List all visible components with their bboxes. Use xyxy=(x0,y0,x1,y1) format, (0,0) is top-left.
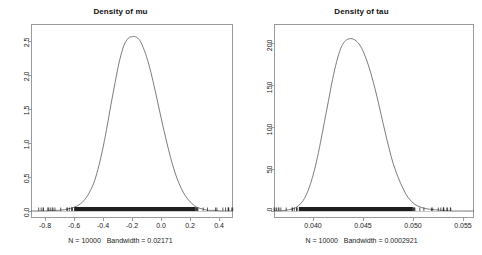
density-curve-tau xyxy=(274,24,474,218)
xtick-label-tau-3: 0.055 xyxy=(454,222,472,229)
xtick-tau-0 xyxy=(313,218,314,221)
density-plots-figure: Density of mu 0.0 0.5 1.0 1.5 2.0 2.5 xyxy=(0,0,482,255)
plot-region-tau xyxy=(274,24,474,218)
xtick-mu-1 xyxy=(74,218,75,221)
xtick-label-mu-0: -0.8 xyxy=(39,222,51,229)
panel-density-of-tau: Density of tau 0 50 100 150 200 0.040 0.… xyxy=(241,0,482,255)
xtick-mu-4 xyxy=(161,218,162,221)
xtick-label-mu-6: 0.4 xyxy=(214,222,224,229)
plot-subtitle-mu: N = 10000 Bandwidth = 0.02171 xyxy=(0,237,241,244)
plot-title-tau: Density of tau xyxy=(241,7,482,16)
xtick-label-mu-4: 0.0 xyxy=(156,222,166,229)
plot-region-mu xyxy=(31,24,233,218)
xtick-mu-2 xyxy=(103,218,104,221)
xtick-label-mu-3: -0.2 xyxy=(126,222,138,229)
xtick-label-mu-5: 0.2 xyxy=(185,222,195,229)
xtick-mu-6 xyxy=(219,218,220,221)
xtick-label-mu-1: -0.6 xyxy=(68,222,80,229)
xtick-label-tau-0: 0.040 xyxy=(304,222,322,229)
xtick-mu-5 xyxy=(190,218,191,221)
xtick-label-tau-2: 0.050 xyxy=(404,222,422,229)
xtick-label-mu-2: -0.4 xyxy=(97,222,109,229)
density-curve-mu xyxy=(31,24,233,218)
xtick-label-tau-1: 0.045 xyxy=(354,222,372,229)
plot-subtitle-tau: N = 10000 Bandwidth = 0.0002921 xyxy=(241,237,482,244)
xtick-mu-3 xyxy=(132,218,133,221)
plot-title-mu: Density of mu xyxy=(0,7,241,16)
xtick-mu-0 xyxy=(45,218,46,221)
xtick-tau-3 xyxy=(463,218,464,221)
xtick-tau-1 xyxy=(363,218,364,221)
panel-density-of-mu: Density of mu 0.0 0.5 1.0 1.5 2.0 2.5 xyxy=(0,0,241,255)
xtick-tau-2 xyxy=(413,218,414,221)
